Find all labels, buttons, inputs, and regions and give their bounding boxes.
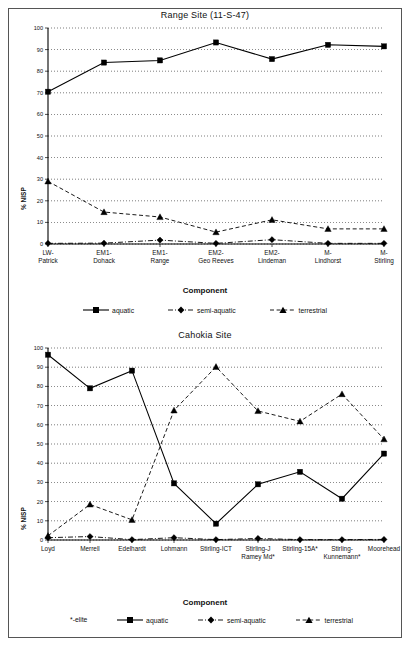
svg-text:10: 10 [37, 518, 43, 524]
svg-text:M-: M- [380, 249, 387, 256]
legend-label-semi-aquatic: semi-aquatic [227, 617, 266, 624]
legend-item-aquatic: aquatic [83, 306, 134, 314]
svg-text:0: 0 [40, 537, 43, 543]
svg-text:50: 50 [37, 133, 43, 139]
svg-text:Stirling-ICT: Stirling-ICT [200, 545, 232, 553]
legend-marker-triangle-icon [270, 306, 296, 314]
legend-label-aquatic: aquatic [146, 617, 168, 624]
svg-text:Geo Reeves: Geo Reeves [198, 257, 234, 264]
legend-marker-diamond-icon [198, 616, 224, 624]
svg-text:EM1-: EM1- [96, 249, 111, 256]
svg-text:30: 30 [37, 479, 43, 485]
svg-text:Stirling-J: Stirling-J [246, 545, 271, 553]
svg-text:60: 60 [37, 422, 43, 428]
legend-cahokia-site: aquatic semi-aquatic terrestrial [60, 616, 410, 624]
svg-text:EM2-: EM2- [264, 249, 279, 256]
svg-text:Edelhardt: Edelhardt [118, 545, 146, 552]
svg-text:Stirling-15A*: Stirling-15A* [282, 545, 318, 553]
legend-marker-triangle-icon [296, 616, 322, 624]
svg-text:Stirling: Stirling [374, 257, 394, 265]
figure-page: Range Site (11-S-47) % NISP 010203040506… [0, 0, 410, 646]
svg-text:70: 70 [37, 90, 43, 96]
svg-text:30: 30 [37, 176, 43, 182]
svg-text:EM2-: EM2- [208, 249, 223, 256]
svg-text:100: 100 [34, 25, 43, 31]
plot-area-cahokia-site: 0102030405060708090100LoydMerrellEdelhar… [26, 344, 390, 574]
svg-text:40: 40 [37, 460, 43, 466]
svg-text:Range: Range [151, 257, 170, 265]
svg-text:10: 10 [37, 219, 43, 225]
svg-text:20: 20 [37, 499, 43, 505]
svg-text:90: 90 [37, 47, 43, 53]
chart-title-cahokia-site: Cahokia Site [0, 330, 410, 340]
legend-marker-square-icon [83, 306, 109, 314]
svg-text:80: 80 [37, 68, 43, 74]
svg-text:M-: M- [324, 249, 331, 256]
svg-text:80: 80 [37, 383, 43, 389]
svg-text:50: 50 [37, 441, 43, 447]
svg-text:Lindeman: Lindeman [258, 257, 287, 264]
svg-text:Ramey Md*: Ramey Md* [241, 553, 275, 561]
svg-text:20: 20 [37, 198, 43, 204]
legend-item-terrestrial: terrestrial [270, 306, 327, 314]
svg-text:0: 0 [40, 241, 43, 247]
legend-label-terrestrial: terrestrial [299, 307, 327, 314]
svg-text:Kunnemann*: Kunnemann* [324, 553, 361, 560]
svg-text:40: 40 [37, 155, 43, 161]
svg-text:Merrell: Merrell [80, 545, 100, 552]
x-axis-label-range-site: Component [0, 286, 410, 295]
svg-text:Loyd: Loyd [41, 545, 55, 553]
legend-marker-square-icon [117, 616, 143, 624]
chart-svg-range-site: 0102030405060708090100LW-PatrickEM1-Doha… [26, 24, 390, 276]
legend-label-aquatic: aquatic [112, 307, 134, 314]
svg-text:Dohack: Dohack [93, 257, 115, 264]
svg-text:EM1-: EM1- [152, 249, 167, 256]
svg-text:Lindhorst: Lindhorst [315, 257, 342, 264]
svg-text:Stirling-: Stirling- [331, 545, 353, 553]
legend-range-site: aquatic semi-aquatic terrestrial [0, 306, 410, 314]
plot-area-range-site: 0102030405060708090100LW-PatrickEM1-Doha… [26, 24, 390, 276]
svg-text:Moorehead: Moorehead [368, 545, 401, 552]
svg-text:90: 90 [37, 364, 43, 370]
svg-text:70: 70 [37, 403, 43, 409]
chart-panel-cahokia-site: Cahokia Site % NISP 01020304050607080901… [0, 330, 410, 628]
legend-item-semi-aquatic: semi-aquatic [168, 306, 236, 314]
legend-label-semi-aquatic: semi-aquatic [197, 307, 236, 314]
legend-item-semi-aquatic: semi-aquatic [198, 616, 266, 624]
legend-item-aquatic: aquatic [117, 616, 168, 624]
legend-marker-diamond-icon [168, 306, 194, 314]
chart-svg-cahokia-site: 0102030405060708090100LoydMerrellEdelhar… [26, 344, 390, 574]
svg-text:LW-: LW- [42, 249, 53, 256]
svg-text:Patrick: Patrick [38, 257, 58, 264]
svg-text:Lohmann: Lohmann [161, 545, 188, 552]
legend-item-terrestrial: terrestrial [296, 616, 353, 624]
chart-panel-range-site: Range Site (11-S-47) % NISP 010203040506… [0, 10, 410, 322]
legend-label-terrestrial: terrestrial [325, 617, 353, 624]
x-axis-label-cahokia-site: Component [0, 598, 410, 607]
chart-title-range-site: Range Site (11-S-47) [0, 10, 410, 20]
svg-text:100: 100 [34, 345, 43, 351]
svg-text:60: 60 [37, 111, 43, 117]
